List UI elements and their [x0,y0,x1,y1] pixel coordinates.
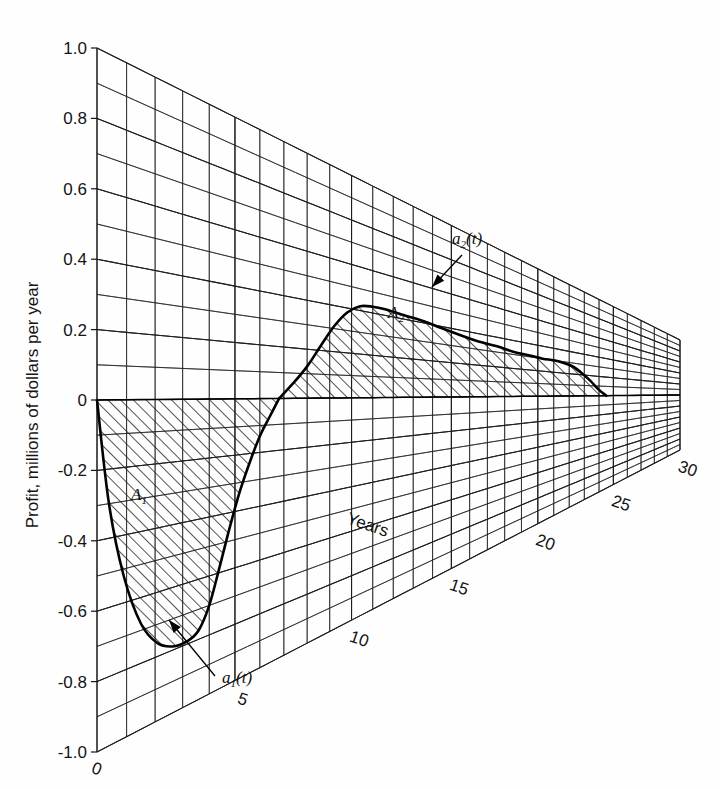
x-tick-label: 5 [235,689,250,710]
y-axis-tick-labels: 1.00.80.60.40.20-0.2-0.4-0.6-0.8-1.0 [58,39,97,762]
y-tick-label: 0.4 [63,250,87,269]
y-tick-label: 0.8 [63,109,87,128]
y-tick-label: -0.6 [58,602,87,621]
y-tick-label: 0.2 [63,321,87,340]
label-a2: a2(t) [452,229,482,250]
label-a1: a1(t) [222,668,252,689]
area-a2-hatching [0,0,720,789]
x-tick-label: 25 [609,491,633,515]
svg-text:A2: A2 [387,303,404,324]
x-tick-label: 20 [534,530,558,554]
y-tick-label: 1.0 [63,39,87,58]
y-tick-label: -0.2 [58,461,87,480]
x-tick-label: 15 [447,575,471,599]
cash-flow-perspective-chart: 1.00.80.60.40.20-0.2-0.4-0.6-0.8-1.0 051… [0,0,720,789]
y-axis-title: Profit, millions of dollars per year [23,281,42,528]
x-tick-label: 30 [676,457,700,481]
figure-canvas: 1.00.80.60.40.20-0.2-0.4-0.6-0.8-1.0 051… [0,0,720,789]
y-tick-label: -1.0 [58,743,87,762]
y-tick-label: 0.6 [63,180,87,199]
area-label-A2: A2 [387,303,404,324]
x-tick-label: 10 [347,627,371,651]
y-tick-label: -0.8 [58,673,87,692]
y-tick-label: 0 [78,391,87,410]
y-tick-label: -0.4 [58,532,87,551]
x-tick-label: 0 [89,758,104,779]
